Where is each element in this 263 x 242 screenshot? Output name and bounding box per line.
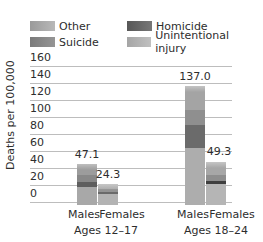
gridline bbox=[30, 66, 232, 67]
bar-females-12-17 bbox=[98, 184, 118, 205]
bar-segment-suicide bbox=[185, 110, 205, 125]
bar-segment-unintentional bbox=[98, 194, 118, 205]
tick-label: 80 bbox=[30, 119, 60, 132]
gridline bbox=[30, 83, 232, 84]
bar-cap bbox=[98, 184, 118, 190]
bar-segment-unintentional bbox=[77, 187, 97, 205]
value-label: 49.3 bbox=[199, 145, 239, 158]
legend-swatch-homicide bbox=[127, 21, 152, 31]
group-label: Ages 18–24 bbox=[176, 224, 256, 237]
value-label: 24.3 bbox=[88, 168, 128, 181]
legend-label: Other bbox=[59, 20, 90, 33]
bar-females-18-24 bbox=[206, 162, 226, 205]
legend-item-suicide: Suicide bbox=[30, 36, 99, 48]
legend-item-other: Other bbox=[30, 20, 90, 32]
group-label: Ages 12–17 bbox=[66, 224, 146, 237]
tick-label: 40 bbox=[30, 153, 60, 166]
tick-label: 20 bbox=[30, 170, 60, 183]
category-label: Females bbox=[97, 208, 147, 221]
chart-legend: Other Homicide Suicide Unintentional inj… bbox=[30, 20, 260, 50]
legend-swatch-unintentional bbox=[127, 37, 151, 47]
legend-swatch-other bbox=[30, 21, 55, 31]
bar-segment-unintentional bbox=[206, 184, 226, 205]
legend-label: Unintentional injury bbox=[155, 29, 260, 55]
y-axis-title: Deaths per 100,000 bbox=[4, 60, 17, 170]
bar-cap bbox=[185, 86, 205, 92]
legend-item-unintentional-injury: Unintentional injury bbox=[127, 36, 260, 48]
bar-cap bbox=[206, 162, 226, 168]
value-label: 47.1 bbox=[67, 148, 107, 161]
tick-label: 100 bbox=[30, 102, 60, 115]
category-label: Females bbox=[207, 208, 257, 221]
tick-label: 160 bbox=[30, 51, 60, 64]
tick-label: 0 bbox=[30, 187, 60, 200]
legend-swatch-suicide bbox=[30, 37, 55, 47]
tick-label: 120 bbox=[30, 85, 60, 98]
tick-label: 140 bbox=[30, 68, 60, 81]
tick-label: 60 bbox=[30, 136, 60, 149]
legend-label: Suicide bbox=[59, 36, 99, 49]
value-label: 137.0 bbox=[175, 70, 215, 83]
